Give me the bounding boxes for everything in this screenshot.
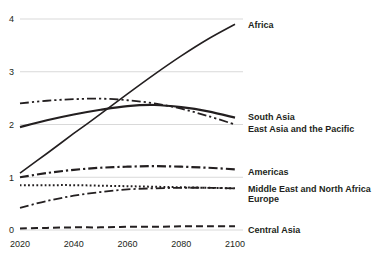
line-chart: 01234 20202040206020802100 AfricaSouth A…: [0, 0, 384, 261]
y-axis-tick-labels: 01234: [9, 14, 14, 235]
series-end-labels: AfricaSouth AsiaEast Asia and the Pacifi…: [248, 20, 372, 235]
y-tick-label-1: 1: [9, 173, 14, 183]
x-tick-label-2060: 2060: [117, 239, 137, 249]
series-line-africa: [20, 24, 235, 173]
series-label-americas: Americas: [248, 167, 289, 177]
series-label-middle-east-and-north-africa: Middle East and North Africa: [248, 184, 372, 194]
x-axis-tick-labels: 20202040206020802100: [10, 239, 245, 249]
y-tick-label-4: 4: [9, 14, 14, 24]
y-tick-label-3: 3: [9, 67, 14, 77]
series-line-central-asia: [20, 226, 235, 228]
y-tick-label-2: 2: [9, 120, 14, 130]
series-label-europe: Europe: [248, 194, 279, 204]
series-label-central-asia: Central Asia: [248, 225, 301, 235]
x-tick-label-2100: 2100: [225, 239, 245, 249]
gridlines: [20, 19, 243, 230]
series-line-east-asia-and-the-pacific: [20, 99, 235, 125]
y-tick-label-0: 0: [9, 225, 14, 235]
x-tick-label-2020: 2020: [10, 239, 30, 249]
series-label-africa: Africa: [248, 20, 275, 30]
data-series-lines: [20, 24, 235, 228]
series-label-east-asia-and-the-pacific: East Asia and the Pacific: [248, 124, 354, 134]
series-label-south-asia: South Asia: [248, 112, 296, 122]
series-line-south-asia: [20, 105, 235, 127]
x-tick-label-2040: 2040: [64, 239, 84, 249]
series-line-americas: [20, 166, 235, 177]
chart-plot-area: 01234 20202040206020802100 AfricaSouth A…: [0, 0, 384, 261]
series-line-europe: [20, 188, 235, 208]
x-tick-label-2080: 2080: [171, 239, 191, 249]
